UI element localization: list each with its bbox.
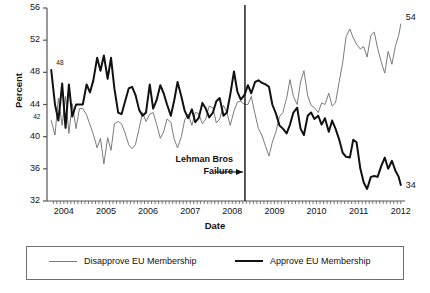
approve-end-value-label: 34 [406,180,416,190]
disapprove-end-value-label: 54 [406,12,416,22]
legend-label-disapprove: Disapprove EU Membership [84,256,197,266]
lehman-annotation-line2: Failure [133,165,233,177]
chart-legend: Disapprove EU Membership Approve EU Memb… [26,246,404,280]
legend-line-swatch-approve [235,260,263,262]
legend-line-swatch-disapprove [49,261,77,262]
legend-item-disapprove: Disapprove EU Membership [49,256,197,266]
chart-figure: Percent Date 32364044485256 200420052006… [0,0,430,293]
legend-item-approve: Approve EU Membership [235,256,371,266]
legend-label-approve: Approve EU Membership [270,256,371,266]
lehman-annotation-line1: Lehman Bros [133,153,233,165]
approve-start-value-label: 48 [56,59,63,66]
disapprove-start-value-label: 42 [33,113,40,120]
